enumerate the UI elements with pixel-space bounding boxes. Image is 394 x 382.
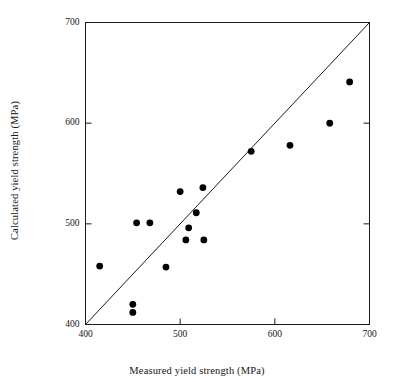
data-point — [182, 237, 189, 244]
data-point — [199, 184, 206, 191]
data-point — [326, 120, 333, 127]
x-tick-label: 700 — [355, 329, 385, 339]
scatter-plot-figure: Calculated yield strength (MPa) 40050060… — [0, 0, 394, 382]
data-point — [129, 301, 136, 308]
data-point — [177, 188, 184, 195]
data-point — [193, 209, 200, 216]
data-point — [163, 264, 170, 271]
y-tick-label: 500 — [54, 218, 80, 228]
x-tick-label: 600 — [260, 329, 290, 339]
data-point — [248, 148, 255, 155]
data-point — [185, 224, 192, 231]
data-point — [133, 219, 140, 226]
x-tick-label: 500 — [165, 329, 195, 339]
y-tick-label: 700 — [54, 17, 80, 27]
x-axis-title: Measured yield strength (MPa) — [0, 365, 394, 376]
x-tick-label: 400 — [71, 329, 101, 339]
y-tick-label: 400 — [54, 319, 80, 329]
data-point — [129, 309, 136, 316]
data-point — [96, 263, 103, 270]
y-tick-label: 600 — [54, 117, 80, 127]
x-axis-tickmarks — [180, 319, 275, 325]
one-to-one-reference-line — [86, 23, 370, 325]
data-point-group — [96, 78, 353, 315]
data-point — [146, 219, 153, 226]
data-point — [200, 237, 207, 244]
data-point — [287, 142, 294, 149]
data-point — [346, 78, 353, 85]
